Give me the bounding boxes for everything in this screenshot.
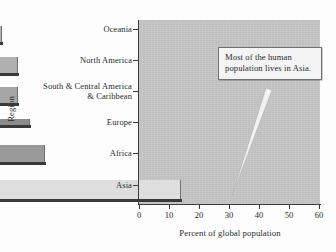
y-tick-north-america <box>133 60 138 61</box>
y-axis-line <box>138 20 139 204</box>
bar-shadow-asia <box>0 199 182 202</box>
y-axis-label-north-america: North America <box>2 56 132 66</box>
y-axis-label-africa: Africa <box>2 149 132 159</box>
y-axis-label-line2: & Caribbean <box>2 92 132 102</box>
y-tick-asia <box>133 185 138 186</box>
y-axis-label-south-central-america: South & Central America & Caribbean <box>2 82 132 101</box>
x-tick-label-50: 50 <box>279 210 299 220</box>
chart-figure: Most of the human population lives in As… <box>0 0 336 252</box>
x-tick-30 <box>229 205 230 209</box>
annotation-callout: Most of the human population lives in As… <box>218 47 322 80</box>
x-tick-20 <box>199 205 200 209</box>
x-tick-0 <box>139 205 140 209</box>
x-tick-60 <box>319 205 320 209</box>
x-tick-40 <box>259 205 260 209</box>
y-tick-africa <box>133 153 138 154</box>
x-tick-label-10: 10 <box>159 210 179 220</box>
bar-shadow-north-america <box>0 73 19 76</box>
y-tick-europe <box>133 122 138 123</box>
y-axis-label-oceania: Oceania <box>2 25 132 35</box>
bar-shadow-africa <box>0 162 46 165</box>
y-axis-label-asia: Asia <box>2 181 132 191</box>
x-tick-label-30: 30 <box>219 210 239 220</box>
y-tick-oceania <box>133 29 138 30</box>
annotation-text: Most of the human population lives in As… <box>225 52 311 73</box>
x-tick-label-60: 60 <box>309 210 329 220</box>
y-axis-title: Region <box>6 84 16 134</box>
y-axis-label-europe: Europe <box>2 118 132 128</box>
y-tick-south-central-america <box>133 91 138 92</box>
x-axis-title: Percent of global population <box>139 228 321 238</box>
bar-shadow-oceania <box>0 42 3 45</box>
x-tick-10 <box>169 205 170 209</box>
x-tick-label-20: 20 <box>189 210 209 220</box>
x-tick-label-40: 40 <box>249 210 269 220</box>
x-tick-50 <box>289 205 290 209</box>
x-tick-label-0: 0 <box>129 210 149 220</box>
